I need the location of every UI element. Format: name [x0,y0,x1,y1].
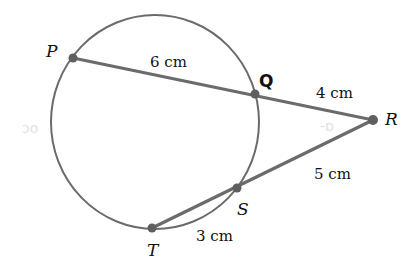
segment-QR-length: 4 cm [316,84,353,102]
point-Q-label: Q [259,71,273,91]
ghost-mark-inner: -ɒ [320,118,334,134]
point-S-dot [233,184,242,193]
segment-PQ-length: 6 cm [150,53,187,71]
point-P-dot [69,54,78,63]
secant-diagram: ɔo -ɒ P Q R S T 6 cm 4 cm 5 cm 3 cm [0,0,420,272]
segment-RS-length: 5 cm [314,165,351,183]
point-R-dot [368,115,378,125]
segment-ST-length: 3 cm [196,227,233,245]
circle [51,15,259,229]
ghost-mark-left: ɔo [22,120,38,136]
point-S-label: S [237,199,249,219]
point-R-label: R [384,109,398,129]
point-T-label: T [147,240,160,260]
point-T-dot [148,224,157,233]
point-P-label: P [45,41,58,61]
